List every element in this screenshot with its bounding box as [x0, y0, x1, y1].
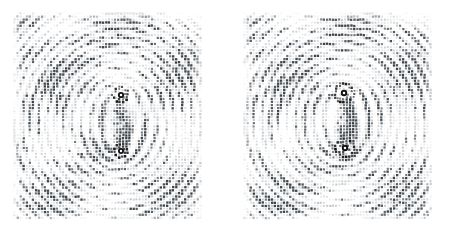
figure-root — [0, 0, 462, 238]
panel-left — [0, 0, 231, 238]
dot-lattice-canvas-right — [231, 0, 462, 238]
panel-right — [231, 0, 462, 238]
dot-lattice-canvas-left — [0, 0, 231, 238]
